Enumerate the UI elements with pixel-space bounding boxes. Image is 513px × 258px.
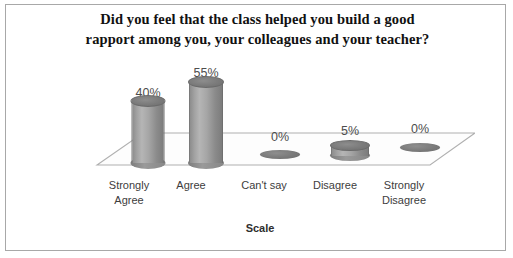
data-label: 0% — [411, 122, 429, 136]
x-axis-title: Scale — [95, 222, 425, 234]
data-label: 5% — [341, 124, 359, 138]
bar-cylinder[interactable] — [331, 145, 369, 156]
plot-area: 40% 55% 0% 5% — [0, 0, 513, 258]
data-label: 0% — [271, 130, 289, 144]
bar-group: 0% — [383, 0, 457, 258]
x-tick-label-agree: Agree — [150, 178, 232, 193]
bar-cylinder-top — [188, 76, 224, 88]
bar-group: 5% — [313, 0, 387, 258]
x-tick-label-strongly-disagree: Strongly Disagree — [363, 178, 445, 207]
x-tick-label-line: Agree — [150, 178, 232, 193]
bar-zero-disc[interactable] — [400, 143, 440, 152]
x-tick-label-line: Agree — [88, 193, 170, 208]
bar-group: 55% — [169, 0, 243, 258]
bar-cylinder-top — [131, 95, 166, 107]
bar-cylinder[interactable] — [132, 101, 165, 163]
x-tick-label-line: Strongly — [363, 178, 445, 193]
bar-cylinder-top — [330, 140, 370, 151]
bar-group: 0% — [243, 0, 317, 258]
x-tick-label-line: Can't say — [223, 178, 305, 193]
bar-cylinder-body — [132, 101, 165, 163]
bar-zero-disc[interactable] — [260, 150, 300, 159]
chart-canvas: Did you feel that the class helped you b… — [0, 0, 513, 258]
x-tick-label-cant-say: Can't say — [223, 178, 305, 193]
x-tick-label-line: Disagree — [363, 193, 445, 208]
bar-cylinder[interactable] — [189, 82, 223, 163]
bar-cylinder-body — [189, 82, 223, 163]
